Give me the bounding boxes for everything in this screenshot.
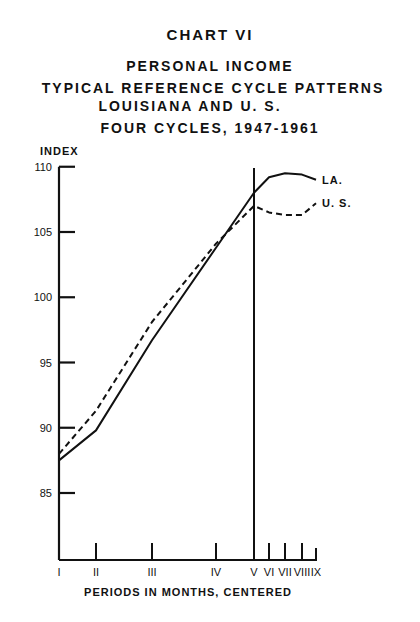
x-tick-label: I <box>57 566 60 578</box>
x-tick-label: VIII <box>294 566 311 578</box>
y-tick-label: 110 <box>34 161 52 173</box>
y-tick-label: 90 <box>40 422 52 434</box>
y-tick-label: 85 <box>40 487 52 499</box>
legend-label-us: U. S. <box>322 197 351 209</box>
x-tick-label: V <box>250 566 258 578</box>
series-line-la <box>59 173 316 460</box>
y-tick-label: 100 <box>34 291 52 303</box>
series-line-us <box>59 203 316 454</box>
x-tick-label: IV <box>211 566 222 578</box>
x-tick-label: IX <box>311 566 322 578</box>
x-tick-label: VI <box>264 566 274 578</box>
y-tick-label: 95 <box>40 357 52 369</box>
line-chart: INDEX859095100105110IIIIIIIVVVIVIIVIIIIX… <box>0 0 420 622</box>
x-axis-label: PERIODS IN MONTHS, CENTERED <box>84 586 292 598</box>
y-axis-label: INDEX <box>40 145 79 157</box>
y-tick-label: 105 <box>34 226 52 238</box>
x-tick-label: III <box>147 566 156 578</box>
legend-label-la: LA. <box>322 174 343 186</box>
x-tick-label: II <box>93 566 99 578</box>
x-tick-label: VII <box>278 566 291 578</box>
